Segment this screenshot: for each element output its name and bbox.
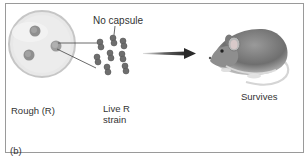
strain-label: strain [103, 114, 126, 125]
live-r-label: Live R [103, 103, 130, 114]
no-capsule-label: No capsule [93, 15, 143, 26]
arrow-right-icon [143, 48, 196, 59]
mouse-icon [209, 29, 288, 85]
survives-label: Survives [241, 91, 277, 102]
panel-label: (b) [10, 145, 22, 156]
rough-r-label: Rough (R) [11, 105, 55, 116]
bacteria-cluster-icon [94, 35, 129, 75]
petri-dish-icon [9, 11, 75, 77]
diagram-canvas [0, 0, 308, 160]
